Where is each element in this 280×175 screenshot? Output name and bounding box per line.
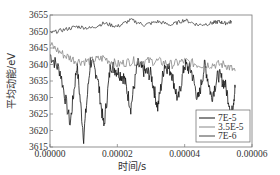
y-tick-label: 3635 <box>29 76 48 86</box>
x-tick-label: 0.00002 <box>102 149 133 159</box>
legend-label: 7E-6 <box>218 131 237 141</box>
y-tick-label: 3640 <box>29 60 48 70</box>
y-axis-label: 平均动能/eV <box>5 53 17 110</box>
legend: 7E-53.5E-57E-6 <box>196 110 250 142</box>
y-tick-label: 3650 <box>29 27 48 37</box>
y-tick-label: 3645 <box>29 43 48 53</box>
series-line-2 <box>50 18 232 33</box>
x-axis-label: 时间/s <box>118 160 147 172</box>
x-tick-label: 0.00006 <box>237 149 268 159</box>
x-tick-label: 0.00004 <box>169 149 200 159</box>
y-tick-label: 3620 <box>29 126 48 136</box>
y-tick-label: 3625 <box>29 109 48 119</box>
y-axis-ticks: 361536203625363036353640364536503655 <box>29 10 53 152</box>
x-axis-ticks: 0.000000.000020.000040.00006 <box>35 144 268 159</box>
y-tick-label: 3655 <box>29 10 48 20</box>
y-tick-label: 3630 <box>29 93 48 103</box>
x-tick-label: 0.00000 <box>35 149 66 159</box>
line-chart: 361536203625363036353640364536503655 0.0… <box>0 0 280 175</box>
